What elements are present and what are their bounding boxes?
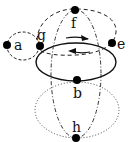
node-g (36, 42, 44, 50)
cycle-diagram: a g f e b h (0, 0, 133, 142)
label-b: b (73, 85, 82, 101)
label-e: e (117, 36, 125, 52)
node-b (73, 76, 81, 84)
node-a (3, 41, 11, 49)
label-g: g (37, 27, 46, 43)
label-f: f (71, 15, 78, 31)
node-f (71, 6, 79, 14)
node-e (108, 39, 116, 47)
node-h (72, 134, 80, 142)
label-a: a (14, 37, 22, 53)
loop-a-g (7, 32, 39, 60)
label-h: h (72, 119, 81, 135)
arrow-left-icon (68, 48, 90, 54)
arrow-right-icon (66, 35, 89, 41)
